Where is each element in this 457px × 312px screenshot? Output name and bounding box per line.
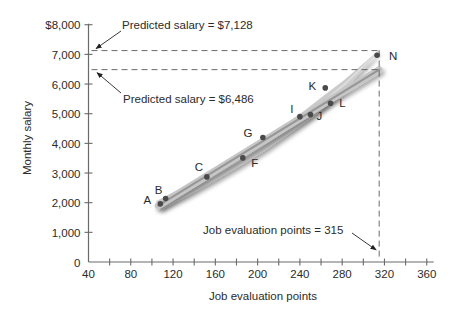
data-point-n <box>374 52 380 58</box>
annotation-arrows <box>96 31 376 250</box>
x-tick-label: 360 <box>417 268 436 280</box>
y-tick-label: 0 <box>74 257 80 269</box>
x-tick-label: 120 <box>163 268 182 280</box>
data-point-label: A <box>144 194 152 206</box>
data-point-i <box>297 114 303 120</box>
x-tick-label: 40 <box>82 268 95 280</box>
data-point-label: F <box>251 157 258 169</box>
data-point-g <box>260 135 266 141</box>
y-tick-label: 7,000 <box>52 49 81 61</box>
x-axis-title: Job evaluation points <box>209 290 317 302</box>
straight-line-fit <box>158 70 379 206</box>
data-point-k <box>322 85 328 91</box>
data-point-c <box>204 174 210 180</box>
data-point-label: G <box>243 127 252 139</box>
salary-regression-figure: 01,0002,0003,0004,0005,0006,0007,000$8,0… <box>0 0 457 312</box>
data-point-l <box>328 101 334 107</box>
y-tick-label: 5,000 <box>52 108 81 120</box>
arrow-predicted-line <box>97 73 121 93</box>
x-tick-label: 200 <box>248 268 267 280</box>
axes: 01,0002,0003,0004,0005,0006,0007,000$8,0… <box>45 19 436 280</box>
y-tick-label: 3,000 <box>52 168 81 180</box>
y-tick-label: 2,000 <box>52 197 81 209</box>
annotation-job-points: Job evaluation points = 315 <box>203 224 343 236</box>
data-point-label: N <box>389 50 397 62</box>
data-point-label: C <box>195 161 203 173</box>
data-point-f <box>240 155 246 161</box>
x-tick-label: 240 <box>290 268 309 280</box>
annotation-predicted-curve: Predicted salary = $7,128 <box>122 19 253 31</box>
y-tick-label: 4,000 <box>52 138 81 150</box>
y-tick-label: $8,000 <box>45 19 80 31</box>
data-point-label: I <box>290 103 293 115</box>
y-axis-title: Monthly salary <box>21 101 33 175</box>
scatter-plot: 01,0002,0003,0004,0005,0006,0007,000$8,0… <box>0 0 457 312</box>
data-point-j <box>308 112 314 118</box>
data-point-a <box>158 201 164 207</box>
data-point-label: J <box>317 110 323 122</box>
x-tick-label: 80 <box>124 268 137 280</box>
x-tick-label: 320 <box>375 268 394 280</box>
y-tick-label: 1,000 <box>52 227 81 239</box>
x-tick-label: 160 <box>206 268 225 280</box>
data-point-label: L <box>339 97 346 109</box>
data-point-label: B <box>155 184 163 196</box>
data-point-b <box>163 196 169 202</box>
arrow-predicted-curve <box>96 31 121 49</box>
annotation-predicted-line: Predicted salary = $6,486 <box>123 93 254 105</box>
data-point-label: K <box>308 80 316 92</box>
x-tick-label: 280 <box>333 268 352 280</box>
y-tick-label: 6,000 <box>52 79 81 91</box>
arrow-job-points <box>352 233 376 250</box>
fit-lines <box>156 50 380 210</box>
data-points: ABCFGIJKLN <box>144 50 398 206</box>
